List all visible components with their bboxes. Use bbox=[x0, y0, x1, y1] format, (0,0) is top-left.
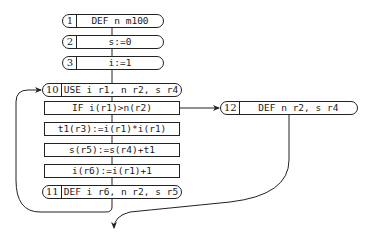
node-number: 3 bbox=[63, 57, 77, 69]
node-number: 12 bbox=[221, 102, 240, 114]
node-number: 10 bbox=[43, 84, 62, 96]
node-label: DEF n m100 bbox=[77, 15, 163, 27]
node-number: 1 bbox=[63, 15, 77, 27]
node-label: DEF n r2, s r4 bbox=[240, 102, 357, 114]
node-label: s:=0 bbox=[77, 36, 163, 48]
node-1: 1 DEF n m100 bbox=[62, 14, 164, 28]
node-if: IF i(r1)>n(r2) bbox=[44, 101, 180, 115]
node-label: s(r5):=s(r4)+t1 bbox=[45, 144, 179, 156]
node-label: t1(r3):=i(r1)*i(r1) bbox=[45, 123, 179, 135]
node-10: 10 USE i r1, n r2, s r4 bbox=[42, 83, 182, 97]
node-label: DEF i r6, n r2, s r5 bbox=[62, 186, 181, 198]
node-label: i:=1 bbox=[77, 57, 163, 69]
node-number: 11 bbox=[43, 186, 62, 198]
node-label: USE i r1, n r2, s r4 bbox=[62, 84, 181, 96]
node-number: 2 bbox=[63, 36, 77, 48]
node-label: i(r6):=i(r1)+1 bbox=[45, 165, 179, 177]
node-3: 3 i:=1 bbox=[62, 56, 164, 70]
node-12: 12 DEF n r2, s r4 bbox=[220, 101, 358, 115]
node-t1: t1(r3):=i(r1)*i(r1) bbox=[44, 122, 180, 136]
node-11: 11 DEF i r6, n r2, s r5 bbox=[42, 185, 182, 199]
node-s: s(r5):=s(r4)+t1 bbox=[44, 143, 180, 157]
node-2: 2 s:=0 bbox=[62, 35, 164, 49]
node-i: i(r6):=i(r1)+1 bbox=[44, 164, 180, 178]
node-label: IF i(r1)>n(r2) bbox=[45, 102, 179, 114]
